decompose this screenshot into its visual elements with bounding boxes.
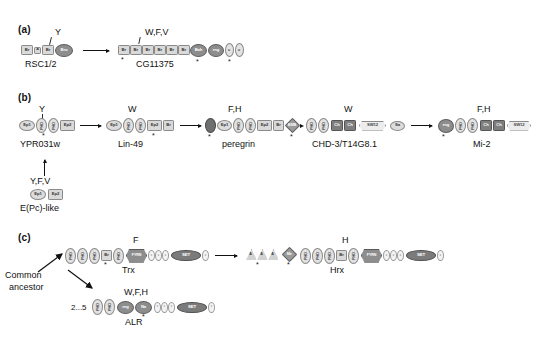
asterisk: * — [290, 133, 293, 140]
domain-at-label: A — [249, 253, 252, 257]
evolution-arrow — [83, 50, 109, 51]
domain-bah: Bah — [190, 44, 207, 57]
domain-phd: PHD — [455, 118, 466, 133]
domain-phd-label: PHD — [126, 122, 130, 130]
domain-phd: PHD — [467, 118, 478, 133]
domain-set: SET — [171, 250, 201, 261]
protein-name-lin49: Lin-49 — [118, 139, 143, 149]
domain-ch: Ch — [331, 120, 343, 131]
domain-phd: PHD — [306, 118, 317, 133]
domain-ep2: Ep2 — [48, 189, 63, 200]
panel-b-p0-top-label: Y — [39, 104, 45, 114]
domain-ch: Ch — [480, 120, 492, 131]
domain-cys: c — [225, 43, 234, 57]
domain-phd-label: PHD — [95, 303, 99, 311]
panel-a-right-top-label: W,F,V — [145, 27, 169, 37]
arrow-to-alr — [68, 270, 92, 288]
asterisk: * — [196, 58, 199, 65]
domain-ep2: Ep2 — [60, 120, 75, 131]
domain-br: Br — [178, 45, 190, 55]
domain-phd: PHD — [36, 118, 47, 133]
domain-phd-label: PHD — [138, 122, 142, 130]
domain-sw12: SW12 — [359, 121, 386, 131]
domain-set: SET — [177, 302, 207, 313]
domain-ring: rng — [438, 119, 454, 133]
domain-phd: PHD — [92, 299, 103, 315]
panel-c-alr-top-label: W,F,H — [124, 287, 148, 297]
domain-at-hook: A — [256, 249, 267, 260]
domain-ch: Ch — [344, 120, 356, 131]
domain-at-hook: A — [267, 249, 278, 260]
domain-phd: PHD — [318, 118, 329, 133]
domain-sa: Sa — [390, 121, 405, 131]
asterisk: * — [208, 133, 211, 140]
protein-name-rsc12: RSC1/2 — [25, 59, 57, 69]
domain-cys-label: c — [238, 49, 242, 51]
evolution-arrow — [180, 125, 201, 126]
domain-phd-label: PHD — [458, 122, 462, 130]
domain-ep2: Ep2 — [147, 120, 162, 131]
domain-cys: c — [202, 250, 209, 261]
domain-cys: c — [397, 250, 404, 261]
domain-br: Br — [42, 45, 54, 55]
domain-cys: c — [161, 302, 168, 313]
protein-name-ypr031w: YPR031w — [20, 139, 60, 149]
domain-ep1: Ep1 — [217, 120, 232, 131]
asterisk: * — [442, 133, 445, 140]
panel-b-p4-top-label: F,H — [477, 104, 491, 114]
domain-phd-label: PHD — [470, 122, 474, 130]
domain-cys: c — [208, 302, 215, 313]
domain-fyrn: FYRN — [361, 249, 382, 263]
domain-bmb-label: BMB — [288, 123, 296, 127]
domain-br: Br — [142, 45, 154, 55]
panel-c-hrx-top-label: H — [342, 235, 349, 245]
common-ancestor-arrows — [0, 240, 130, 330]
domain-cys: c — [235, 43, 244, 57]
asterisk: * — [42, 132, 45, 139]
domain-cys: c — [148, 250, 155, 261]
domain-cys: c — [390, 250, 397, 261]
domain-phd: PHD — [233, 118, 244, 133]
domain-phd: PHD — [48, 118, 59, 133]
domain-cys: c — [168, 302, 175, 313]
domain-phd: PHD — [135, 118, 146, 133]
protein-name-alr: ALR — [125, 317, 143, 327]
domain-phd: PHD — [123, 118, 134, 133]
evolution-arrow — [215, 255, 237, 256]
domain-cys: c — [383, 250, 390, 261]
protein-name-peregrin: peregrin — [222, 139, 255, 149]
figure-canvas: (a) Y Br A Br Bro RSC1/2 W,F,V Br Br Br … — [0, 0, 537, 339]
domain-bro: Bro — [55, 44, 73, 57]
domain-br: Br — [21, 45, 33, 55]
evolution-arrow — [80, 125, 101, 126]
domain-phd: PHD — [300, 248, 311, 264]
domain-sw12: SW12 — [507, 121, 531, 131]
domain-me-label: Me — [287, 253, 292, 257]
domain-phd-label: PHD — [327, 252, 331, 260]
domain-br: Br — [273, 120, 284, 131]
domain-br: Br — [163, 120, 174, 131]
evolution-arrow — [411, 125, 432, 126]
domain-na: Na — [135, 301, 152, 314]
domain-a: A — [34, 47, 41, 55]
domain-ring: rng — [208, 44, 224, 57]
domain-phd-label: PHD — [39, 122, 43, 130]
domain-phd-label: PHD — [107, 303, 111, 311]
domain-ch: Ch — [493, 120, 505, 131]
domain-bmb: BMB — [285, 117, 301, 133]
asterisk: * — [287, 261, 290, 268]
panel-a-right-tick — [138, 37, 140, 44]
domain-phd-label: PHD — [236, 122, 240, 130]
domain-ep1: Ep1 — [30, 189, 46, 200]
domain-me: Me — [282, 247, 298, 263]
protein-name-epc-like: E(Pc)-like — [20, 203, 59, 213]
panel-c-trx-top-label: F — [133, 235, 139, 245]
domain-phd-label: PHD — [51, 122, 55, 130]
domain-ring: rng — [117, 301, 134, 314]
domain-phd-label: PHD — [315, 252, 319, 260]
protein-name-cg11375: CG11375 — [136, 59, 174, 69]
domain-phd: PHD — [348, 248, 359, 264]
domain-phd-label: PHD — [303, 252, 307, 260]
domain-phd: PHD — [312, 248, 323, 264]
domain-phd: PHD — [104, 299, 115, 315]
